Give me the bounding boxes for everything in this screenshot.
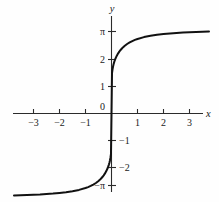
y-label-neg1: −1 (119, 135, 130, 146)
x-label-neg1: −1 (80, 117, 91, 128)
y-label-negpi: −π (94, 180, 105, 191)
y-label-zero: 0 (100, 101, 105, 112)
x-label-pos1: 1 (135, 117, 140, 128)
y-label-pos1: 1 (100, 81, 105, 92)
y-axis-name: y (109, 3, 115, 14)
x-axis-name: x (205, 108, 211, 119)
y-label-pi: π (100, 26, 105, 37)
x-label-neg3: −3 (28, 117, 39, 128)
plot-canvas: −3 −2 −1 1 2 3 π 2 1 0 −1 −2 −π x y (0, 0, 219, 202)
y-label-neg2: −2 (119, 162, 130, 173)
y-label-pos2: 2 (100, 54, 105, 65)
x-label-neg2: −2 (54, 117, 65, 128)
x-label-pos2: 2 (161, 117, 166, 128)
x-label-pos3: 3 (187, 117, 192, 128)
graph-figure: −3 −2 −1 1 2 3 π 2 1 0 −1 −2 −π x y (0, 0, 219, 202)
